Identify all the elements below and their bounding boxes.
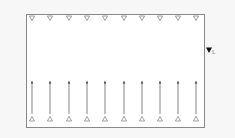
level-subscript: L: [212, 49, 215, 55]
diagram-canvas: [0, 0, 235, 138]
